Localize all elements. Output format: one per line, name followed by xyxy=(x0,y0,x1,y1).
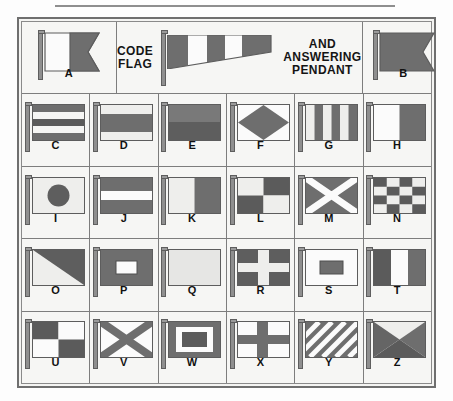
flag-o: O xyxy=(25,247,87,297)
flag-x: X xyxy=(230,319,292,369)
flag-a: A xyxy=(38,30,100,80)
flag-field xyxy=(168,177,221,214)
flag-letter-label: X xyxy=(230,357,292,368)
chart-outer-frame: A CODE FLAG xyxy=(17,17,436,388)
flag-s: S xyxy=(298,247,360,297)
flag-cell-n[interactable]: N xyxy=(364,167,431,238)
flag-field xyxy=(100,321,153,358)
flag-c: C xyxy=(25,102,87,152)
flag-t: T xyxy=(366,247,428,297)
chart-row-3: O P xyxy=(22,239,431,311)
flag-letter-label: V xyxy=(93,357,155,368)
flag-letter-label: A xyxy=(38,68,100,79)
flag-cell-c[interactable]: C xyxy=(22,94,90,165)
flag-field xyxy=(373,249,426,286)
flag-field xyxy=(373,177,426,214)
flag-cell-o[interactable]: O xyxy=(22,239,90,310)
flag-field xyxy=(100,177,153,214)
flag-z: Z xyxy=(366,319,428,369)
flag-cell-a[interactable]: A xyxy=(22,22,117,93)
flag-cell-i[interactable]: I xyxy=(22,167,90,238)
flag-field xyxy=(373,321,426,358)
flag-cell-e[interactable]: E xyxy=(159,94,227,165)
flag-field xyxy=(100,249,153,286)
flag-h: H xyxy=(366,102,428,152)
flag-field xyxy=(32,321,85,358)
code-answering-pendant xyxy=(159,30,277,86)
flag-letter-label: Z xyxy=(366,357,428,368)
flag-f: F xyxy=(230,102,292,152)
chart-row-header: A CODE FLAG xyxy=(22,22,431,94)
flag-letter-label: U xyxy=(25,357,87,368)
top-rule-divider xyxy=(55,5,395,7)
flag-letter-label: P xyxy=(93,285,155,296)
answering-pendant-caption: AND ANSWERING PENDANT xyxy=(283,38,361,77)
flag-r: R xyxy=(230,247,292,297)
chart-row-1: C D xyxy=(22,94,431,166)
code-flag-caption-line-2: FLAG xyxy=(117,58,153,71)
flag-cell-p[interactable]: P xyxy=(90,239,158,310)
code-flag-header-cell: CODE FLAG xyxy=(117,22,363,93)
flag-cell-l[interactable]: L xyxy=(227,167,295,238)
flag-u: U xyxy=(25,319,87,369)
flag-field xyxy=(32,249,85,286)
flag-letter-label: W xyxy=(161,357,223,368)
flag-letter-label: R xyxy=(230,285,292,296)
flag-b: B xyxy=(373,30,435,80)
flag-field xyxy=(373,104,426,141)
flag-letter-label: B xyxy=(373,68,435,79)
flag-l: L xyxy=(230,175,292,225)
flag-field xyxy=(237,104,290,141)
flag-cell-y[interactable]: Y xyxy=(295,312,363,383)
flag-d: D xyxy=(93,102,155,152)
flag-p: P xyxy=(93,247,155,297)
flag-cell-u[interactable]: U xyxy=(22,312,90,383)
flag-cell-k[interactable]: K xyxy=(159,167,227,238)
flag-cell-j[interactable]: J xyxy=(90,167,158,238)
flag-i: I xyxy=(25,175,87,225)
flag-letter-label: F xyxy=(230,140,292,151)
flag-cell-b[interactable]: B xyxy=(363,22,445,93)
flag-letter-label: L xyxy=(230,213,292,224)
flag-field xyxy=(168,249,221,286)
flag-y: Y xyxy=(298,319,360,369)
flag-letter-label: N xyxy=(366,213,428,224)
flag-field xyxy=(32,177,85,214)
flag-letter-label: Q xyxy=(161,285,223,296)
flag-field xyxy=(237,321,290,358)
flag-m: M xyxy=(298,175,360,225)
flag-k: K xyxy=(161,175,223,225)
answering-pendant-caption-line-3: PENDANT xyxy=(283,64,361,77)
chart-row-2: I J xyxy=(22,167,431,239)
flag-w: W xyxy=(161,319,223,369)
flag-e: E xyxy=(161,102,223,152)
flag-cell-z[interactable]: Z xyxy=(364,312,431,383)
flag-cell-r[interactable]: R xyxy=(227,239,295,310)
code-flag-caption-line-1: CODE xyxy=(117,45,153,58)
flag-cell-h[interactable]: H xyxy=(364,94,431,165)
flag-letter-label: C xyxy=(25,140,87,151)
flag-cell-s[interactable]: S xyxy=(295,239,363,310)
signal-flag-chart-page: A CODE FLAG xyxy=(0,0,453,401)
flag-cell-v[interactable]: V xyxy=(90,312,158,383)
flag-cell-t[interactable]: T xyxy=(364,239,431,310)
flag-cell-m[interactable]: M xyxy=(295,167,363,238)
flag-letter-label: D xyxy=(93,140,155,151)
flag-cell-d[interactable]: D xyxy=(90,94,158,165)
flag-cell-q[interactable]: Q xyxy=(159,239,227,310)
flag-cell-x[interactable]: X xyxy=(227,312,295,383)
flag-cell-w[interactable]: W xyxy=(159,312,227,383)
flag-letter-label: T xyxy=(366,285,428,296)
flag-letter-label: O xyxy=(25,285,87,296)
chart-row-4: U V xyxy=(22,312,431,383)
flag-letter-label: M xyxy=(298,213,360,224)
pendant-staff-icon xyxy=(161,30,166,86)
flag-cell-g[interactable]: G xyxy=(295,94,363,165)
flag-v: V xyxy=(93,319,155,369)
flag-letter-label: G xyxy=(298,140,360,151)
flag-cell-f[interactable]: F xyxy=(227,94,295,165)
flag-q: Q xyxy=(161,247,223,297)
flag-letter-label: Y xyxy=(298,357,360,368)
flag-field xyxy=(237,249,290,286)
flag-field xyxy=(168,104,221,141)
